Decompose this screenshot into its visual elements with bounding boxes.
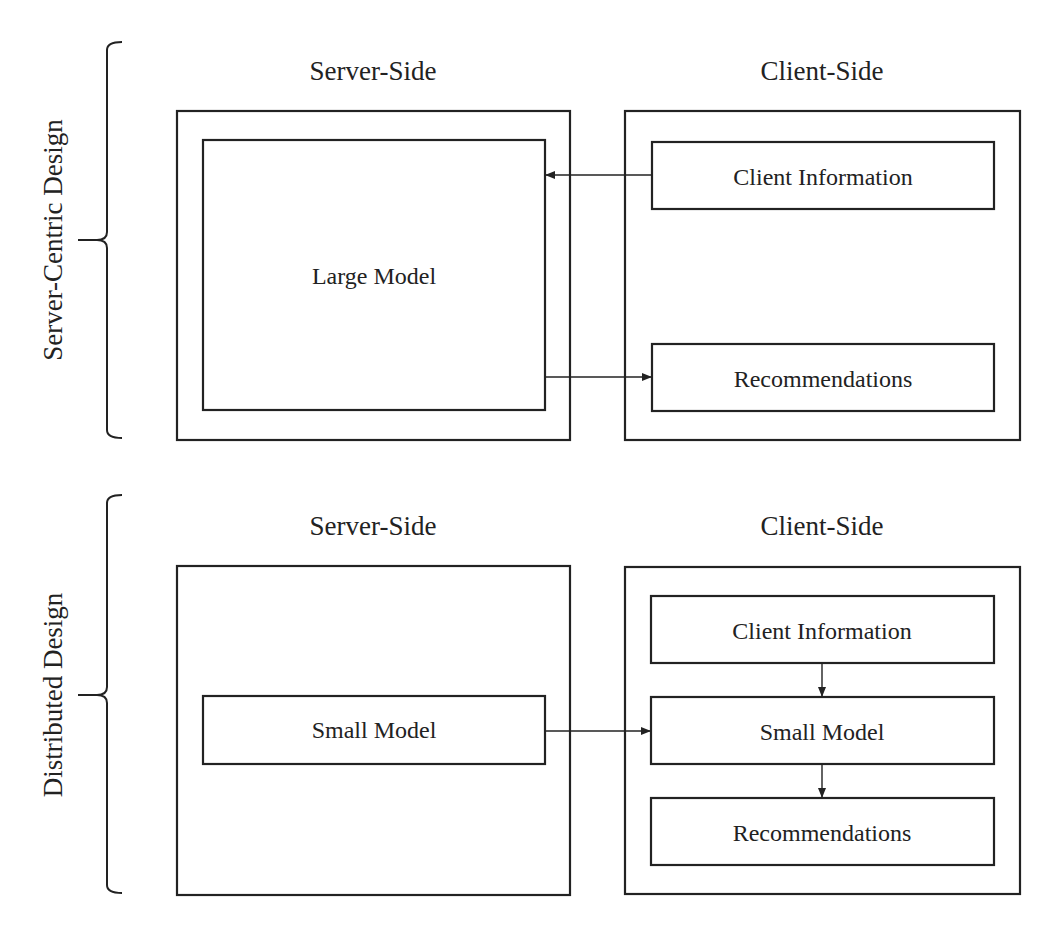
section-brace	[78, 42, 122, 438]
client-information-label: Client Information	[733, 164, 912, 190]
client-small-model-label: Small Model	[760, 719, 885, 745]
architecture-diagram: Server-Centric Design Server-Side Client…	[0, 0, 1056, 925]
recommendations-label: Recommendations	[734, 366, 913, 392]
section-distributed: Distributed Design Server-Side Client-Si…	[38, 495, 1020, 895]
server-small-model-label: Small Model	[312, 717, 437, 743]
client-information-label: Client Information	[732, 618, 911, 644]
client-side-heading: Client-Side	[761, 511, 884, 541]
large-model-label: Large Model	[312, 263, 437, 289]
section-brace	[78, 495, 122, 893]
section-title: Distributed Design	[38, 592, 68, 797]
server-side-heading: Server-Side	[310, 56, 437, 86]
client-side-heading: Client-Side	[761, 56, 884, 86]
recommendations-label: Recommendations	[733, 820, 912, 846]
server-side-heading: Server-Side	[310, 511, 437, 541]
section-title: Server-Centric Design	[38, 119, 68, 361]
section-server-centric: Server-Centric Design Server-Side Client…	[38, 42, 1020, 440]
